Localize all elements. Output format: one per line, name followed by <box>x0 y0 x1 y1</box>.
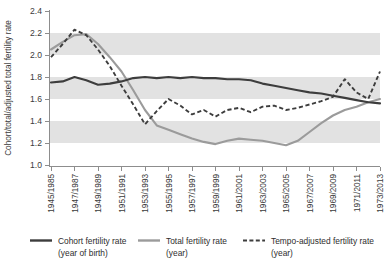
x-tick-label: 1955/1995 <box>165 174 174 213</box>
chart-legend: Cohort fertility rate(year of birth)Tota… <box>30 236 374 258</box>
x-tick-label: 1967/2007 <box>306 174 315 213</box>
x-tick-label: 1945/1985 <box>47 174 56 213</box>
legend-label-line2: (year) <box>166 248 188 258</box>
legend-label-line1: Tempo-adjusted fertility rate <box>271 236 374 246</box>
y-tick-label: 2.4 <box>30 6 42 16</box>
y-tick-labels: 1.01.21.41.61.82.02.22.4 <box>30 6 42 170</box>
x-tick-marks <box>51 167 380 171</box>
x-tick-label: 1957/1997 <box>188 174 197 213</box>
x-tick-label: 1949/1989 <box>94 174 103 213</box>
x-tick-label: 1963/2003 <box>259 174 268 213</box>
y-tick-label: 1.8 <box>30 72 42 82</box>
x-tick-label: 1971/2011 <box>353 174 362 213</box>
x-tick-label: 1965/2005 <box>282 174 291 213</box>
y-tick-label: 1.0 <box>30 160 42 170</box>
y-tick-marks <box>45 11 49 165</box>
chart-canvas: 1.01.21.41.61.82.02.22.4 Cohort/total/ad… <box>0 0 387 271</box>
legend-label-line2: (year) <box>271 248 293 258</box>
x-tick-label: 1969/2009 <box>329 174 338 213</box>
y-tick-label: 1.6 <box>30 94 42 104</box>
band-1.2-1.4 <box>49 121 380 143</box>
legend-label-line1: Total fertility rate <box>166 236 227 246</box>
x-tick-label: 1953/1993 <box>141 174 150 213</box>
y-tick-label: 1.2 <box>30 138 42 148</box>
x-tick-label: 1959/1999 <box>212 174 221 213</box>
y-tick-label: 2.2 <box>30 28 42 38</box>
y-tick-label: 2.0 <box>30 50 42 60</box>
x-tick-label: 1947/1987 <box>71 174 80 213</box>
fertility-rate-line-chart: 1.01.21.41.61.82.02.22.4 Cohort/total/ad… <box>0 0 387 271</box>
legend-label-line2: (year of birth) <box>58 248 108 258</box>
y-axis-title: Cohort/total/adjusted total fertility ra… <box>4 20 13 156</box>
y-tick-label: 1.4 <box>30 116 42 126</box>
y-axis: 1.01.21.41.61.82.02.22.4 Cohort/total/ad… <box>4 6 50 170</box>
legend-label-line1: Cohort fertility rate <box>58 236 127 246</box>
x-tick-labels: 1945/19851947/19871949/19891951/19911953… <box>47 174 385 213</box>
x-tick-label: 1951/1991 <box>118 174 127 213</box>
x-axis: 1945/19851947/19871949/19891951/19911953… <box>47 167 385 213</box>
x-tick-label: 1961/2001 <box>235 174 244 213</box>
x-tick-label: 1973/2013 <box>376 174 385 213</box>
